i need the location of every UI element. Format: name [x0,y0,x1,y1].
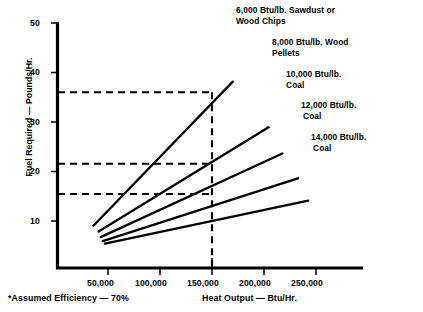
series-lines [93,82,308,244]
reference-lines [58,92,212,266]
y-tick-label-50: 50 [30,18,40,29]
series-label-8000-btu-line2: Pellets [272,48,300,59]
series-label-10000-btu-line1: 10,000 Btu/lb. [286,69,341,80]
y-tick-label-40: 40 [30,67,40,78]
y-tick-label-10: 10 [30,216,40,227]
x-tick-label-150000: 150,000 [187,278,219,289]
series-label-6000-btu-line2: Wood Chips [236,16,286,27]
x-tick-label-100000: 100,000 [135,278,167,289]
x-tick-label-200000: 200,000 [239,278,271,289]
y-tick-label-30: 30 [30,117,40,128]
fuel-requirement-chart: Fuel Required — Pounds/Hr. 50 40 30 20 1… [0,0,423,312]
series-label-8000-btu-line1: 8,000 Btu/lb. Wood [272,37,349,48]
series-label-6000-btu-line1: 6,000 Btu/lb. Sawdust or [236,5,335,16]
x-tick-label-250000: 250,000 [291,278,323,289]
series-label-14000-btu-line2: Coal [313,143,332,154]
series-label-14000-btu-line1: 14,000 Btu/lb. [311,132,366,143]
y-tick-label-20: 20 [30,166,40,177]
series-label-10000-btu-line2: Coal [286,80,305,91]
footnote-assumed-efficiency: *Assumed Efficiency — 70% [8,293,129,304]
series-label-12000-btu-line2: Coal [303,111,322,122]
x-axis-title: Heat Output — Btu/Hr. [202,293,297,304]
series-label-12000-btu-line1: 12,000 Btu/lb. [301,100,356,111]
chart-plot-area [0,0,423,312]
x-tick-label-50000: 50,000 [87,278,114,289]
